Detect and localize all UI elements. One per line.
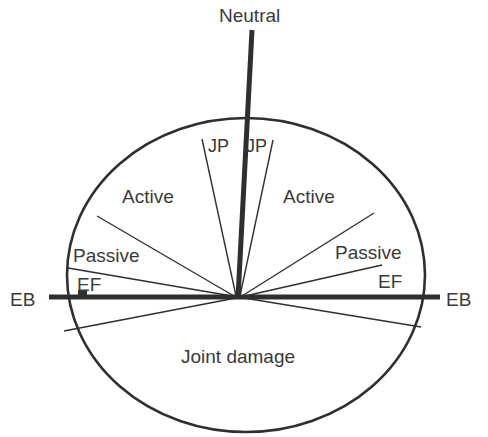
neutral-label: Neutral <box>219 6 280 25</box>
eb-right-label: EB <box>446 290 471 309</box>
joint-range-diagram: Neutral JP JP Active Active Passive Pass… <box>0 0 488 437</box>
jp-left-label: JP <box>208 137 229 155</box>
neutral-axis-line <box>238 30 252 298</box>
ef-left-label: EF <box>77 275 101 294</box>
ef-right-label: EF <box>378 272 402 291</box>
jp-left-boundary-line <box>202 139 236 296</box>
joint-damage-label: Joint damage <box>181 347 295 366</box>
active-left-label: Active <box>122 187 174 206</box>
active-right-label: Active <box>283 187 335 206</box>
eb-left-label: EB <box>10 290 35 309</box>
jp-right-label: JP <box>246 137 267 155</box>
passive-left-label: Passive <box>73 246 140 265</box>
joint-damage-left-boundary-line <box>64 298 236 331</box>
joint-damage-right-boundary-line <box>244 298 421 327</box>
passive-right-label: Passive <box>335 243 402 262</box>
diagram-canvas <box>0 0 488 437</box>
